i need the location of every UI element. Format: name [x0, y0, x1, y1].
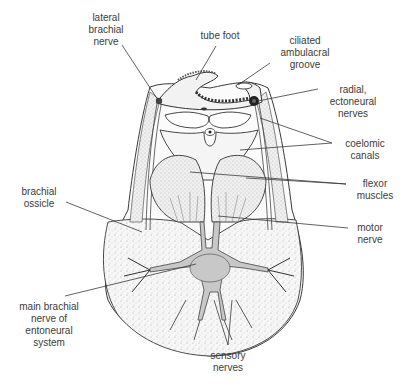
- label-line: entoneural: [14, 325, 84, 337]
- label-sensory-nerves: sensory nerves: [203, 350, 253, 374]
- label-line: main brachial: [14, 301, 84, 313]
- label-line: nerves: [318, 108, 388, 120]
- label-line: system: [14, 337, 84, 349]
- label-tube-foot: tube foot: [190, 30, 250, 42]
- label-line: lateral: [76, 12, 136, 24]
- label-line: sensory: [203, 350, 253, 362]
- label-coelomic-canals: coelomic canals: [335, 138, 395, 162]
- label-motor-nerve: motor nerve: [350, 222, 390, 246]
- label-line: nerves: [203, 362, 253, 374]
- label-flexor-muscles: flexor muscles: [350, 178, 400, 202]
- label-line: ectoneural: [318, 96, 388, 108]
- label-line: ambulacral: [270, 47, 340, 59]
- label-line: tube foot: [190, 30, 250, 42]
- label-line: flexor: [350, 178, 400, 190]
- label-lateral-brachial-nerve: lateral brachial nerve: [76, 12, 136, 48]
- label-line: canals: [335, 150, 395, 162]
- label-line: brachial: [14, 186, 64, 198]
- label-line: nerve of: [14, 313, 84, 325]
- label-main-brachial-nerve: main brachial nerve of entoneural system: [14, 301, 84, 349]
- label-line: brachial: [76, 24, 136, 36]
- label-line: radial,: [318, 84, 388, 96]
- label-line: ciliated: [270, 35, 340, 47]
- label-line: muscles: [350, 190, 400, 202]
- label-line: ossicle: [14, 198, 64, 210]
- label-line: coelomic: [335, 138, 395, 150]
- label-line: nerve: [76, 36, 136, 48]
- label-ciliated-ambulacral-groove: ciliated ambulacral groove: [270, 35, 340, 71]
- label-line: groove: [270, 59, 340, 71]
- label-line: motor: [350, 222, 390, 234]
- label-brachial-ossicle: brachial ossicle: [14, 186, 64, 210]
- label-line: nerve: [350, 234, 390, 246]
- label-radial-ectoneural-nerves: radial, ectoneural nerves: [318, 84, 388, 120]
